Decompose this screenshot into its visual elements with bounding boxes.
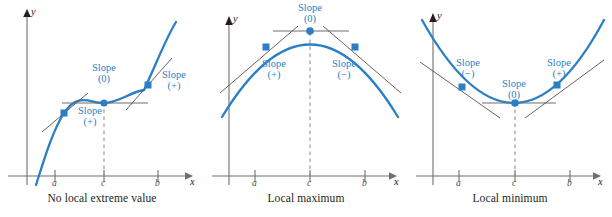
slope-sign-b: (−) [322, 69, 366, 80]
y-axis-label: y [31, 6, 36, 17]
calculus-slope-figure: Slope (+) Slope (0) Slope (+) a c b x y … [0, 0, 612, 217]
tick-label-a: a [252, 178, 257, 188]
marker-point-b [145, 82, 152, 89]
marker-point-c [306, 27, 314, 35]
panel-no-local-extreme-value: Slope (+) Slope (0) Slope (+) a c b x y … [0, 0, 204, 217]
marker-point-a [459, 84, 466, 91]
panel-2-graph [204, 0, 408, 217]
slope-label-b: Slope (+) [537, 57, 581, 79]
marker-point-a [61, 110, 68, 117]
marker-point-c [511, 99, 519, 107]
panel-1-caption: No local extreme value [0, 192, 204, 204]
panel-local-maximum: Slope (0) Slope (+) Slope (−) a c b x y … [204, 0, 408, 217]
panel-local-minimum: Slope (−) Slope (0) Slope (+) a c b x y … [408, 0, 612, 217]
y-axis-arrow [429, 13, 437, 22]
x-axis-label: x [598, 176, 603, 187]
tick-label-a: a [456, 178, 461, 188]
panel-3-caption: Local minimum [408, 192, 612, 204]
slope-sign-a: (+) [68, 116, 112, 127]
tick-label-b: b [362, 178, 367, 188]
x-axis-label: x [394, 176, 399, 187]
slope-sign-c: (0) [492, 89, 536, 100]
slope-sign-b: (+) [537, 68, 581, 79]
panel-2-caption: Local maximum [204, 192, 408, 204]
tick-label-b: b [155, 178, 160, 188]
slope-word-c: Slope [92, 62, 116, 73]
slope-label-a: Slope (−) [446, 57, 490, 79]
panel-3-graph [408, 0, 612, 217]
marker-point-b [352, 44, 359, 51]
tick-label-c: c [307, 178, 311, 188]
slope-word-a: Slope [456, 57, 480, 68]
y-axis-arrow [225, 16, 233, 25]
slope-word-b: Slope [162, 69, 186, 80]
slope-sign-a: (−) [446, 68, 490, 79]
slope-label-a: Slope (+) [252, 58, 296, 80]
slope-word-c: Slope [502, 78, 526, 89]
slope-label-c: Slope (0) [492, 78, 536, 100]
slope-label-c: Slope (0) [82, 62, 126, 84]
slope-sign-c: (0) [288, 13, 332, 24]
slope-label-b: Slope (+) [152, 69, 196, 91]
slope-sign-b: (+) [152, 80, 196, 91]
tick-label-c: c [101, 178, 105, 188]
slope-word-a: Slope [78, 105, 102, 116]
y-axis-label: y [437, 10, 442, 21]
y-axis-label: y [233, 13, 238, 24]
slope-word-c: Slope [298, 2, 322, 13]
slope-word-a: Slope [262, 58, 286, 69]
tick-label-c: c [512, 178, 516, 188]
slope-label-b: Slope (−) [322, 58, 366, 80]
marker-point-a [263, 44, 270, 51]
slope-label-a: Slope (+) [68, 105, 112, 127]
tick-label-a: a [52, 178, 57, 188]
slope-sign-c: (0) [82, 73, 126, 84]
slope-word-b: Slope [332, 58, 356, 69]
marker-point-b [554, 82, 561, 89]
x-axis-label: x [190, 176, 195, 187]
slope-word-b: Slope [547, 57, 571, 68]
slope-label-c: Slope (0) [288, 2, 332, 24]
tick-label-b: b [567, 178, 572, 188]
y-axis-arrow [23, 9, 31, 17]
slope-sign-a: (+) [252, 69, 296, 80]
